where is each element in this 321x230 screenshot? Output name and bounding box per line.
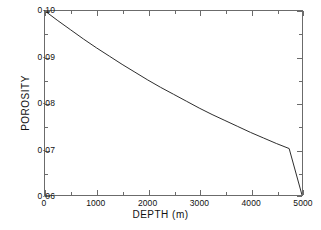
x-tick-label: 2000 [138,198,157,208]
x-major-tick [149,190,150,195]
x-major-tick-top [200,11,201,16]
y-minor-tick [45,174,48,175]
x-tick-label: 5000 [293,198,312,208]
y-major-tick-right [297,58,302,59]
y-minor-tick-right [299,34,302,35]
x-minor-tick [123,192,124,195]
x-minor-tick-top [71,11,72,14]
x-major-tick-top [149,11,150,16]
x-minor-tick-top [175,11,176,14]
x-minor-tick-top [278,11,279,14]
x-minor-tick-top [123,11,124,14]
x-minor-tick-top [226,11,227,14]
y-minor-tick [45,34,48,35]
x-tick-label: 4000 [242,198,261,208]
x-major-tick [303,190,304,195]
y-major-tick-right [297,11,302,12]
y-tick-label: 0·09 [38,52,55,62]
y-axis-title: POROSITY [20,75,31,131]
y-tick-label: 0·06 [38,191,55,201]
y-minor-tick [45,127,48,128]
y-minor-tick-right [299,127,302,128]
x-minor-tick [226,192,227,195]
x-axis-title: DEPTH (m) [0,209,321,220]
x-major-tick [97,190,98,195]
y-minor-tick [45,81,48,82]
x-tick-label: 1000 [86,198,105,208]
x-tick-label: 3000 [190,198,209,208]
y-minor-tick-right [299,81,302,82]
y-tick-label: 0·07 [38,145,55,155]
y-major-tick-right [297,196,302,197]
y-major-tick-right [297,151,302,152]
x-major-tick-top [303,11,304,16]
y-tick-label: 0·10 [38,5,55,15]
porosity-curve [45,11,302,195]
x-minor-tick [71,192,72,195]
plot-area [44,10,303,196]
x-minor-tick [175,192,176,195]
y-minor-tick-right [299,174,302,175]
y-tick-label: 0·08 [38,98,55,108]
x-major-tick-top [252,11,253,16]
x-major-tick-top [97,11,98,16]
porosity-depth-chart: DEPTH (m) POROSITY 010002000300040005000… [0,0,321,230]
y-major-tick-right [297,104,302,105]
x-major-tick [200,190,201,195]
x-major-tick [252,190,253,195]
x-minor-tick [278,192,279,195]
